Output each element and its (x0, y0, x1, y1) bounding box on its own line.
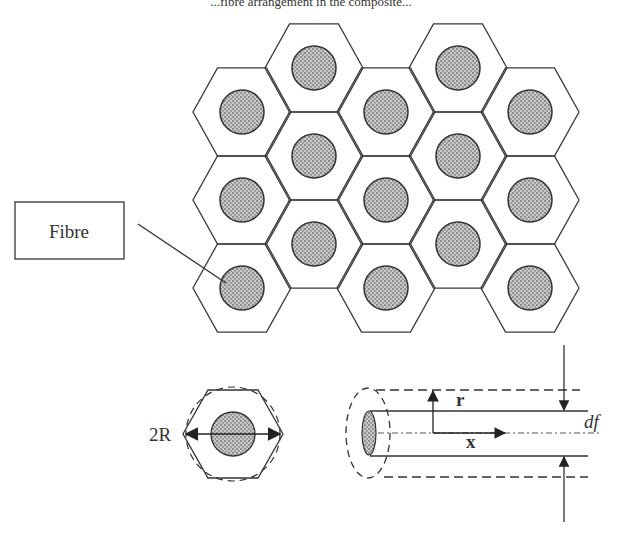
fibre-label: Fibre (15, 202, 226, 283)
fibre-cross-section (364, 178, 408, 222)
fibre-cross-section (292, 134, 336, 178)
fibre-cross-section (508, 90, 552, 134)
fibre-diameter-label: df (584, 411, 602, 432)
fibre-cross-section (220, 266, 264, 310)
fibre-cross-section (436, 46, 480, 90)
fibre-end-face (362, 411, 376, 455)
axial-axis-label: x (466, 431, 476, 452)
fibre-cross-section (292, 46, 336, 90)
fibre-packing-diagram: ...fibre arrangement in the composite...… (0, 0, 623, 538)
radial-axis-label: r (456, 389, 465, 410)
fibre-cross-section (220, 178, 264, 222)
fibre-cross-section (292, 222, 336, 266)
diameter-label: 2R (149, 424, 172, 445)
fibre-cross-section (436, 222, 480, 266)
fibre-cross-section (436, 134, 480, 178)
fibre-cross-section (220, 90, 264, 134)
unit-cell-diagram: 2R (149, 387, 283, 481)
fibre-cross-section (364, 266, 408, 310)
fibre-label-text: Fibre (49, 221, 89, 242)
cylinder-model: r x df (346, 345, 602, 522)
fibre-cross-section (508, 178, 552, 222)
fibre-cross-section (508, 266, 552, 310)
hexagonal-fibre-grid (193, 24, 579, 332)
fibre-cross-section (364, 90, 408, 134)
caption-fragment: ...fibre arrangement in the composite... (210, 0, 411, 9)
